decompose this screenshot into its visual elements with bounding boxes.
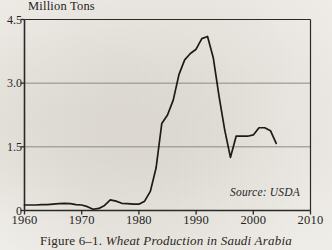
x-axis-tick-1980: 1980: [117, 214, 161, 227]
figure-caption: Figure 6–1. Wheat Production in Saudi Ar…: [0, 233, 332, 249]
source-note: Source: USDA: [230, 186, 300, 198]
x-axis-tick-2010: 2010: [289, 214, 332, 227]
x-axis-tick-1960: 1960: [3, 214, 47, 227]
series-line-wheat-production: [25, 36, 277, 209]
x-axis-tick-labels: 196019701980199020002010: [0, 214, 332, 234]
caption-title: Wheat Production in Saudi Arabia: [106, 233, 292, 248]
x-axis-tick-1990: 1990: [174, 214, 218, 227]
figure-wheat-production-saudi-arabia: Million Tons 01.53.04.5 1960197019801990…: [0, 0, 332, 250]
x-axis-tick-2000: 2000: [231, 214, 275, 227]
x-axis-tick-1970: 1970: [60, 214, 104, 227]
chart-plot-area: [0, 0, 332, 250]
caption-label: Figure 6–1.: [40, 233, 102, 248]
